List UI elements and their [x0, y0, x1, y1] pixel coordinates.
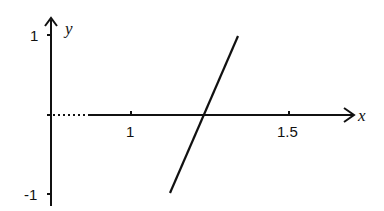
y-tick-label-1: 1: [30, 27, 38, 44]
x-axis-label: x: [357, 106, 366, 125]
x-tick-label-1: 1: [126, 123, 134, 140]
x-tick-label-1-5: 1.5: [277, 123, 298, 140]
y-tick-label-minus1: -1: [24, 186, 37, 203]
chart: 1 -1 y 1 1.5 x: [0, 0, 384, 211]
y-axis: [45, 18, 57, 206]
y-axis-label: y: [63, 19, 73, 38]
